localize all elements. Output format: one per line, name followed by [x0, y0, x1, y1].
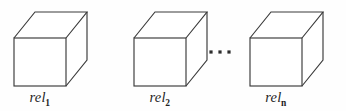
- cube-2-front-face: [134, 38, 186, 86]
- cube-1: [14, 12, 87, 86]
- cube-3-label-base: rel: [265, 89, 281, 105]
- cube-1-label-subscript: 1: [45, 98, 50, 108]
- cube-3-label-subscript: n: [281, 98, 286, 108]
- cubes-group: [14, 12, 323, 86]
- cube-3-front-face: [250, 38, 302, 86]
- cube-2-label-base: rel: [150, 89, 166, 105]
- cube-3: [250, 12, 323, 86]
- cube-1-label-base: rel: [30, 89, 46, 105]
- cube-2: [134, 12, 207, 86]
- ellipsis-group: [209, 50, 230, 53]
- ellipsis-dot-1: [209, 50, 212, 53]
- cube-2-label: rel2: [120, 89, 200, 106]
- cube-3-label: reln: [236, 89, 316, 106]
- ellipsis-dot-3: [227, 50, 230, 53]
- cube-1-label: rel1: [0, 89, 80, 106]
- cube-2-label-subscript: 2: [165, 98, 170, 108]
- cube-1-front-face: [14, 38, 66, 86]
- cube-sequence-figure: rel1rel2reln: [0, 0, 346, 111]
- ellipsis-dot-2: [218, 50, 221, 53]
